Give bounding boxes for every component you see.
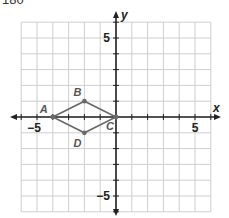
point-label-b: B: [73, 86, 81, 98]
x-axis-label: x: [212, 101, 221, 115]
y-axis-label: y: [120, 8, 129, 22]
x-axis-left-arrow-icon: [10, 114, 17, 120]
point-b: [82, 99, 87, 104]
y-axis-up-arrow-icon: [113, 11, 119, 18]
point-d: [82, 130, 87, 135]
y-tick-label: −5: [96, 189, 110, 203]
point-a: [50, 115, 55, 120]
point-label-c: C: [106, 120, 115, 132]
x-tick-label: −5: [27, 121, 41, 135]
point-label-a: A: [39, 103, 48, 115]
point-c: [114, 115, 119, 120]
y-axis-down-arrow-icon: [113, 209, 119, 216]
coordinate-plane: −555−5xyABCD: [0, 0, 229, 218]
y-tick-label: 5: [103, 31, 110, 45]
point-label-d: D: [73, 137, 81, 149]
x-tick-label: 5: [192, 121, 199, 135]
